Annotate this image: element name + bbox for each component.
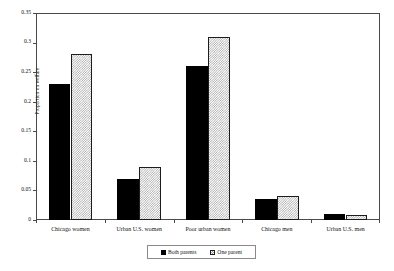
x-axis: Chicago womenUrban U.S. womenPoor urban … — [36, 220, 380, 246]
bar-group — [311, 13, 380, 220]
x-axis-category-label: Chicago men — [242, 226, 311, 232]
x-axis-tick-mark — [36, 220, 37, 223]
y-axis-tick-label: 0 — [28, 216, 31, 222]
y-axis-tick-label: 0.05 — [21, 186, 31, 192]
legend-item-label: One parent — [217, 249, 242, 255]
x-axis-tick-mark — [311, 220, 312, 223]
bar-group — [242, 13, 311, 220]
bar-both-parents — [255, 199, 277, 220]
x-axis-tick-mark — [174, 220, 175, 223]
bar-one-parent — [277, 196, 299, 220]
x-axis-tick-mark — [242, 220, 243, 223]
x-axis-category-label: Poor urban women — [174, 226, 243, 232]
x-axis-category-label: Urban U.S. men — [311, 226, 380, 232]
bars-layer — [36, 13, 380, 220]
y-axis-tick-label: 0.2 — [24, 98, 31, 104]
bar-one-parent — [139, 167, 161, 220]
checkerboard-swatch — [210, 250, 215, 255]
y-axis-tick-label: 0.25 — [21, 68, 31, 74]
legend-item: Both parents — [161, 249, 196, 255]
x-axis-tick-mark — [105, 220, 106, 223]
x-axis-category-label: Chicago women — [36, 226, 105, 232]
bar-chart: Proportion on welfare 00.050.10.150.20.2… — [0, 0, 394, 271]
bar-both-parents — [186, 66, 208, 220]
bar-one-parent — [208, 37, 230, 220]
legend-item-label: Both parents — [168, 249, 196, 255]
x-axis-tick-mark — [379, 220, 380, 223]
bar-group — [105, 13, 174, 220]
y-axis-tick-label: 0.35 — [21, 9, 31, 15]
y-axis-tick-label: 0.15 — [21, 127, 31, 133]
bar-group — [36, 13, 105, 220]
y-axis-tick-label: 0.3 — [24, 38, 31, 44]
solid-black-swatch — [161, 250, 166, 255]
bar-group — [174, 13, 243, 220]
x-axis-category-label: Urban U.S. women — [105, 226, 174, 232]
bar-both-parents — [49, 84, 71, 220]
chart-legend: Both parentsOne parent — [147, 245, 256, 259]
legend-item: One parent — [210, 249, 242, 255]
bar-one-parent — [71, 54, 93, 220]
y-axis-tick-label: 0.1 — [24, 157, 31, 163]
bar-both-parents — [117, 179, 139, 220]
